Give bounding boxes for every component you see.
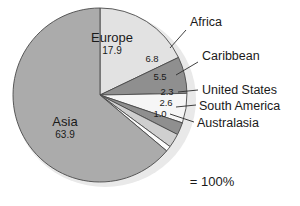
callout-label-united-states: United States <box>202 83 277 97</box>
callout-label-south-america: South America <box>199 99 280 113</box>
pie-chart-svg: Europe 17.9 Asia 63.9 6.8 5.5 2.3 2.6 1.… <box>0 0 300 206</box>
callout-value-africa: 6.8 <box>145 53 158 64</box>
slice-label-asia-value: 63.9 <box>55 129 75 140</box>
slice-label-asia-name: Asia <box>52 114 78 129</box>
callout-label-africa: Africa <box>190 15 222 29</box>
callout-value-australasia: 1.0 <box>153 108 166 119</box>
slice-label-europe-value: 17.9 <box>102 45 122 56</box>
leader-line-africa <box>170 30 186 48</box>
callout-value-caribbean: 5.5 <box>153 71 166 82</box>
slice-label-europe-name: Europe <box>91 30 133 45</box>
pie-chart: Europe 17.9 Asia 63.9 6.8 5.5 2.3 2.6 1.… <box>0 0 300 206</box>
callout-label-caribbean: Caribbean <box>202 49 260 63</box>
total-caption: = 100% <box>190 174 235 189</box>
callout-value-united-states: 2.3 <box>160 86 173 97</box>
callout-label-australasia: Australasia <box>197 116 259 130</box>
callout-value-south-america: 2.6 <box>159 97 172 108</box>
